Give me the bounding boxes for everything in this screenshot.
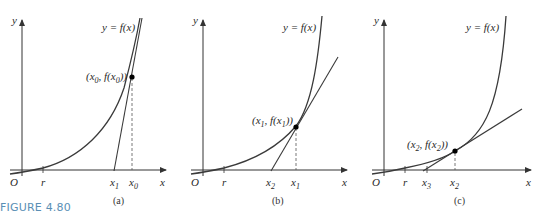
origin-label: O — [191, 176, 199, 188]
root-label: r — [41, 176, 46, 188]
origin-label: O — [372, 176, 380, 188]
point-label: (x0, f(x0)) — [86, 70, 127, 85]
curve-label: y = f(x) — [282, 21, 316, 34]
root-label: r — [403, 176, 408, 188]
tick-x2: x2 — [265, 176, 275, 191]
tick-x1: x1 — [109, 176, 119, 191]
panel-b: O r x2 x1 x y y = f(x) (x1, f(x1)) (b) — [191, 14, 347, 207]
panel-caption: (a) — [113, 195, 124, 207]
tick-x0: x0 — [128, 176, 138, 191]
point-label: (x1, f(x1)) — [252, 114, 293, 129]
tick-x2: x2 — [449, 176, 459, 191]
curve-label: y = f(x) — [465, 21, 499, 34]
panel-caption: (c) — [454, 195, 465, 207]
curve-f — [191, 16, 322, 174]
tangent-line — [114, 18, 142, 171]
newton-method-figure: O r x1 x0 x y y = f(x) (x0, f(x0)) (a) O… — [0, 0, 540, 218]
tick-x1: x1 — [290, 176, 300, 191]
tangent-point — [129, 74, 134, 79]
origin-label: O — [10, 176, 18, 188]
curve-f — [10, 18, 140, 174]
x-axis-label: x — [525, 176, 531, 188]
root-label: r — [222, 176, 227, 188]
point-label: (x2, f(x2)) — [407, 138, 448, 153]
figure-label: FIGURE 4.80 — [0, 201, 71, 214]
y-axis-label: y — [192, 14, 198, 26]
x-axis-label: x — [341, 176, 347, 188]
x-axis-label: x — [159, 176, 165, 188]
tangent-line — [423, 109, 522, 171]
tick-x3: x3 — [421, 176, 431, 191]
y-axis-label: y — [373, 14, 379, 26]
curve-label: y = f(x) — [101, 21, 135, 34]
panel-a: O r x1 x0 x y y = f(x) (x0, f(x0)) (a) — [10, 14, 166, 207]
tangent-point — [293, 124, 298, 129]
panel-c: O r x3 x2 x y y = f(x) (x2, f(x2)) (c) — [372, 14, 531, 207]
panel-caption: (b) — [272, 195, 284, 207]
tangent-point — [452, 148, 457, 153]
y-axis-label: y — [11, 14, 17, 26]
